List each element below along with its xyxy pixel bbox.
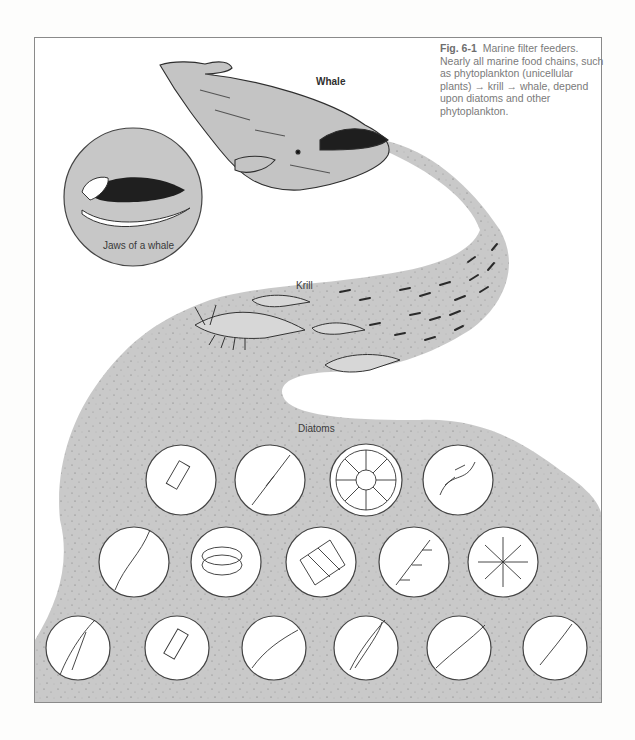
- figure-caption: Fig. 6-1Marine filter feeders. Nearly al…: [440, 42, 605, 117]
- diatoms-label: Diatoms: [298, 423, 335, 434]
- krill-label: Krill: [296, 280, 313, 291]
- page: Fig. 6-1Marine filter feeders. Nearly al…: [0, 0, 635, 740]
- whale-label: Whale: [316, 76, 345, 87]
- jaws-label: Jaws of a whale: [103, 240, 174, 251]
- figure-number: Fig. 6-1: [440, 42, 477, 54]
